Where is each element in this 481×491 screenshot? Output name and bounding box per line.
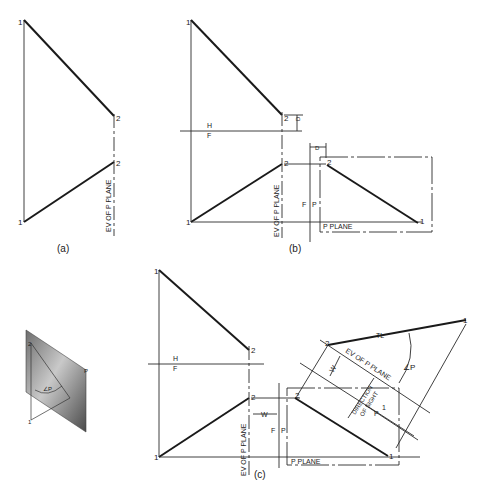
descriptive-geometry-figure: 1 1 2 2 EV OF P PLANE (a) H F D 2 2 1 1 … bbox=[0, 0, 481, 491]
panel-c-fold-h: H bbox=[173, 355, 178, 362]
panel-a-caption: (a) bbox=[57, 243, 69, 254]
pictorial-plane-label: P bbox=[84, 368, 88, 374]
panel-c-dim-w-aux: W bbox=[328, 364, 338, 374]
panel-b-ev-label: EV OF P PLANE bbox=[273, 184, 280, 237]
pictorial-view: 2 1 P ∠P bbox=[26, 330, 88, 432]
panel-b-point1-top-label: 1 bbox=[186, 18, 191, 27]
panel-c-tl-point2: 2 bbox=[325, 339, 330, 348]
panel-c-ev-aux-label: EV OF P PLANE bbox=[344, 347, 392, 382]
panel-b-fold2-p: P bbox=[312, 201, 317, 208]
panel-c: H F 1 1 2 2 EV OF P PLANE W F P 2 1 P PL… bbox=[148, 267, 468, 480]
panel-b: H F D 2 2 1 1 EV OF P PLANE F P D 2 1 P … bbox=[180, 18, 432, 254]
panel-c-fold-f: F bbox=[173, 365, 177, 372]
panel-c-point1-top: 1 bbox=[154, 267, 159, 276]
panel-c-fold3-p: P bbox=[374, 410, 379, 417]
panel-c-dim-w: W bbox=[261, 411, 268, 418]
panel-c-p-plane-label: P PLANE bbox=[291, 458, 321, 465]
panel-b-fold-h: H bbox=[207, 122, 212, 129]
panel-c-point1-bottom: 1 bbox=[154, 453, 159, 462]
panel-c-fold3-1: 1 bbox=[382, 404, 386, 411]
panel-b-aux-point1: 1 bbox=[420, 217, 425, 226]
panel-c-aux-point1: 1 bbox=[389, 452, 394, 461]
panel-c-ev-label: EV OF P PLANE bbox=[240, 423, 247, 476]
panel-c-tl-point1: 1 bbox=[463, 316, 468, 325]
pictorial-angle-label: ∠P bbox=[43, 386, 52, 392]
panel-a: 1 1 2 2 EV OF P PLANE (a) bbox=[18, 18, 121, 254]
panel-a-ev-label: EV OF P PLANE bbox=[105, 179, 112, 232]
panel-b-point2-bottom: 2 bbox=[284, 159, 289, 168]
panel-b-fold2-f: F bbox=[302, 201, 306, 208]
panel-b-fold-f: F bbox=[207, 132, 211, 139]
panel-b-caption: (b) bbox=[289, 243, 301, 254]
panel-b-point2-top: 2 bbox=[284, 114, 289, 123]
panel-b-dim-d-top: D bbox=[295, 116, 301, 121]
panel-b-point1-top: 1 bbox=[186, 218, 191, 227]
panel-b-aux-point2: 2 bbox=[327, 158, 332, 167]
panel-a-point1-bottom: 1 bbox=[18, 218, 23, 227]
panel-c-caption: (c) bbox=[254, 469, 266, 480]
panel-c-angle-label: ∠P bbox=[403, 363, 415, 372]
panel-a-point1-top: 1 bbox=[18, 18, 23, 27]
panel-c-point2-top: 2 bbox=[251, 346, 256, 355]
panel-c-fold2-f: F bbox=[271, 427, 275, 434]
panel-b-p-plane-label: P PLANE bbox=[323, 223, 353, 230]
panel-b-dim-d-aux: D bbox=[315, 145, 320, 151]
panel-a-point2-bottom: 2 bbox=[116, 159, 121, 168]
panel-a-point2-top: 2 bbox=[116, 114, 121, 123]
panel-c-tl-label: TL bbox=[376, 332, 384, 339]
panel-c-point2-bottom: 2 bbox=[251, 393, 256, 402]
panel-c-fold2-p: P bbox=[281, 427, 286, 434]
